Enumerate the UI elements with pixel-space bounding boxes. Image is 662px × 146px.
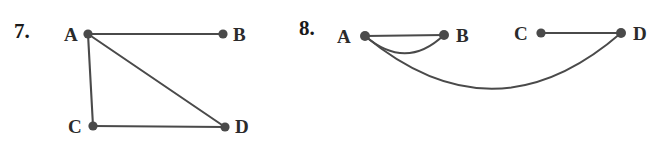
edge-a-b-straight: [365, 35, 444, 36]
problem-number-7: 7.: [14, 21, 30, 42]
vertex-label-c-problem-7: C: [68, 117, 82, 136]
vertex-label-a-problem-7: A: [64, 25, 78, 44]
vertex-b: [439, 30, 449, 40]
edge-a-c: [88, 34, 93, 126]
graph-theory-figure: 7. A B C D 8. A B C D: [0, 0, 662, 146]
vertex-c: [88, 121, 97, 130]
problem-8-graph: [360, 28, 626, 89]
vertex-b: [218, 29, 227, 38]
edge-a-b-arc: [365, 35, 444, 53]
vertex-label-c-problem-8: C: [514, 24, 528, 43]
edge-a-d-arc: [365, 33, 621, 89]
vertex-label-d-problem-7: D: [235, 117, 249, 136]
problem-number-8: 8.: [299, 18, 315, 39]
vertex-a: [360, 31, 370, 41]
vertex-a: [83, 29, 92, 38]
vertex-label-b-problem-8: B: [456, 26, 469, 45]
vertex-label-d-problem-8: D: [633, 24, 647, 43]
graph-edges-canvas: [0, 0, 662, 146]
problem-7-graph: [83, 29, 229, 131]
edge-a-d: [88, 34, 225, 127]
vertex-label-a-problem-8: A: [337, 27, 351, 46]
vertex-c: [536, 28, 545, 37]
edge-c-d: [93, 126, 225, 127]
vertex-d: [616, 28, 626, 38]
vertex-d: [220, 122, 229, 131]
vertex-label-b-problem-7: B: [233, 25, 246, 44]
